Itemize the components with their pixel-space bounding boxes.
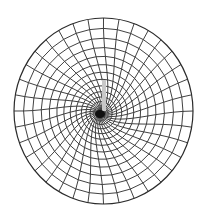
mesh-line: [100, 40, 161, 114]
finite-element-mesh: [0, 0, 201, 216]
mesh-diagram: Circular finite element mesh refined tow…: [0, 0, 201, 216]
mesh-line: [46, 40, 101, 114]
crack-line: [102, 80, 106, 111]
crack-streak: [102, 80, 106, 111]
mesh-line: [100, 51, 172, 114]
crack-tip-dot: [95, 110, 105, 118]
mesh-line: [35, 51, 100, 114]
crack-tip-focus: [95, 110, 105, 118]
